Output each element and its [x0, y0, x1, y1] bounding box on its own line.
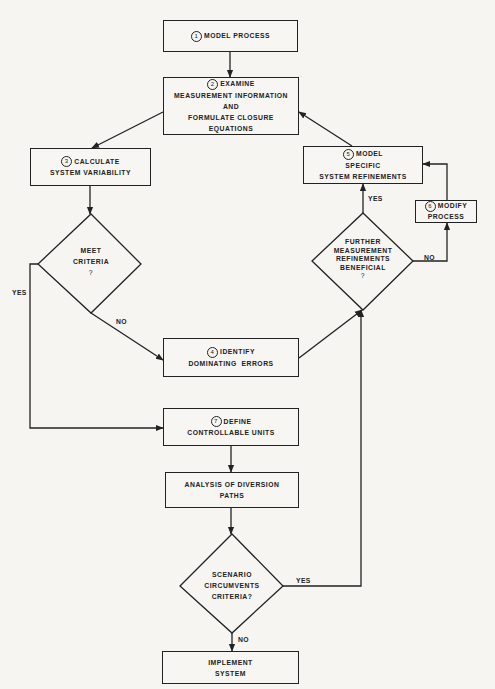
step-label: MODEL PROCESS [204, 32, 270, 39]
step-modify: 6MODIFY PROCESS [415, 200, 477, 223]
arrow-2-to-3 [92, 112, 163, 148]
decision-meet-criteria: MEET CRITERIA ? [58, 245, 124, 278]
step-label: EXAMINE [220, 80, 254, 87]
step-label: MEASUREMENT INFORMATION [174, 90, 288, 101]
step-number-badge: 2 [207, 79, 218, 90]
step-define: 7DEFINE CONTROLLABLE UNITS [163, 408, 299, 446]
step-number-badge: 6 [425, 201, 436, 212]
step-model-process: 1MODEL PROCESS [163, 20, 298, 52]
step-label: PATHS [220, 490, 245, 501]
no-label: NO [424, 254, 435, 261]
step-number-badge: 3 [61, 156, 72, 167]
step-number-badge: 7 [211, 416, 222, 427]
step-label: MODIFY [438, 202, 467, 209]
decision-label: MEET [58, 245, 124, 256]
step-label: IDENTIFY [220, 348, 255, 355]
step-calculate: 3CALCULATE SYSTEM VARIABILITY [30, 148, 151, 186]
step-model-specific: 5MODEL SPECIFIC SYSTEM REFINEMENTS [303, 146, 423, 184]
decision-further-refinements: FURTHER MEASUREMENT REFINEMENTS BENEFICI… [322, 238, 404, 281]
decision-label: ? [58, 267, 124, 278]
step-label: FORMULATE CLOSURE [188, 112, 274, 123]
step-label: PROCESS [428, 212, 465, 222]
step-label: EQUATIONS [209, 123, 253, 134]
decision-scenario: SCENARIO CIRCUMVENTS CRITERIA? [192, 569, 272, 602]
decision-label: MEASUREMENT [322, 247, 404, 256]
arrow-4-to-decision [299, 310, 362, 358]
yes-label: YES [12, 289, 27, 296]
step-label: IMPLEMENT [208, 657, 253, 668]
step-label: SPECIFIC [345, 160, 380, 171]
arrow-5-to-2 [299, 112, 352, 146]
arrow-no-to-4 [91, 313, 163, 360]
no-label: NO [238, 636, 249, 643]
yes-label: YES [296, 577, 311, 584]
step-number-badge: 1 [191, 31, 202, 42]
step-label: SYSTEM [215, 668, 246, 679]
step-label: MODEL [356, 150, 383, 157]
step-label: AND [223, 101, 239, 112]
decision-label: CRITERIA? [192, 591, 272, 602]
step-identify: 4IDENTIFY DOMINATING ERRORS [163, 338, 299, 377]
step-label: SYSTEM VARIABILITY [50, 167, 131, 178]
step-analysis: ANALYSIS OF DIVERSION PATHS [165, 472, 299, 508]
step-number-badge: 5 [343, 149, 354, 160]
step-examine: 2EXAMINE MEASUREMENT INFORMATION AND FOR… [163, 77, 299, 135]
decision-label: ? [322, 272, 404, 281]
step-label: CALCULATE [74, 158, 120, 165]
decision-label: CRITERIA [58, 256, 124, 267]
no-label: NO [116, 318, 127, 325]
step-label: DEFINE [224, 418, 252, 425]
arrow-6-to-5 [423, 164, 447, 200]
decision-label: SCENARIO [192, 569, 272, 580]
decision-label: CIRCUMVENTS [192, 580, 272, 591]
step-label: DOMINATING ERRORS [188, 358, 273, 369]
step-label: CONTROLLABLE UNITS [187, 427, 275, 438]
decision-label: BENEFICIAL [322, 264, 404, 273]
yes-label: YES [368, 195, 383, 202]
step-number-badge: 4 [207, 347, 218, 358]
decision-label: REFINEMENTS [322, 255, 404, 264]
step-implement: IMPLEMENT SYSTEM [162, 651, 299, 684]
step-label: SYSTEM REFINEMENTS [319, 171, 407, 182]
step-label: ANALYSIS OF DIVERSION [185, 479, 280, 490]
decision-label: FURTHER [322, 238, 404, 247]
